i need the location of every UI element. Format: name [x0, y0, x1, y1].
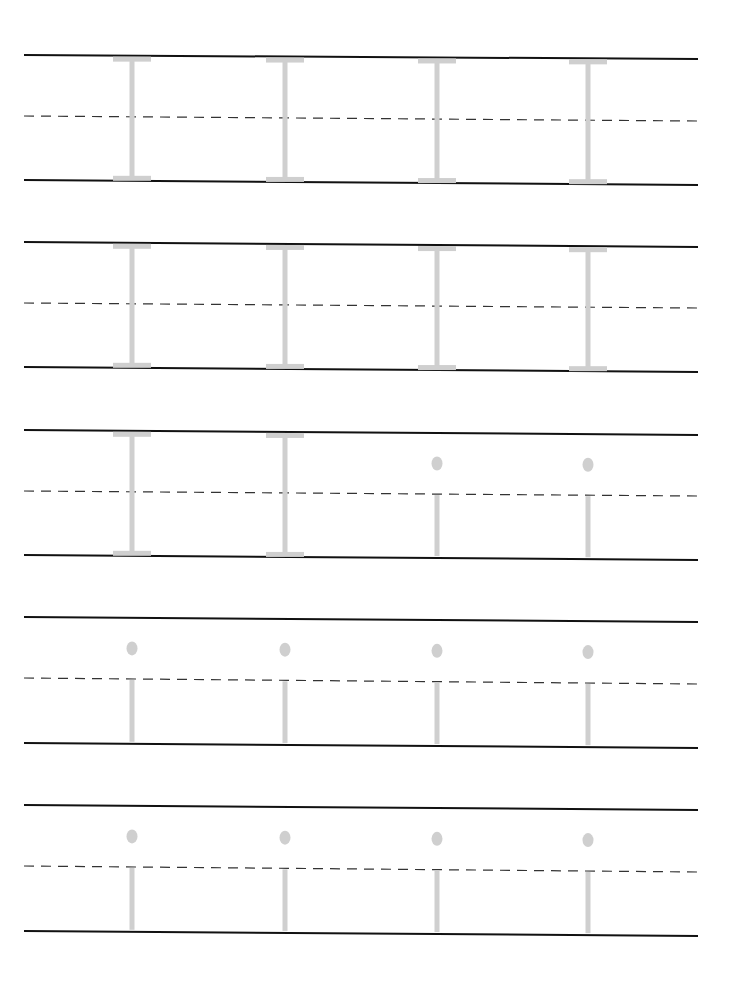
trace-letter-I-bottom-serif — [266, 177, 304, 182]
trace-letter-I-bottom-serif — [569, 366, 607, 371]
trace-letter-I-bottom-serif — [418, 178, 456, 183]
trace-letter-i-dot — [432, 832, 443, 846]
top-line — [24, 617, 698, 622]
trace-letter-i-dot — [583, 645, 594, 659]
trace-letter-i-dot — [127, 641, 138, 655]
trace-letter-i-stem — [130, 868, 135, 930]
trace-letter-i-dot — [280, 831, 291, 845]
bottom-line — [24, 743, 698, 748]
trace-letter-I-stem — [130, 59, 135, 178]
trace-letter-i-stem — [586, 872, 591, 933]
trace-letter-I-stem — [130, 246, 135, 365]
trace-letter-I-stem — [586, 61, 591, 181]
handwriting-worksheet — [0, 0, 736, 989]
trace-letter-I-stem — [283, 247, 288, 366]
trace-letter-I-bottom-serif — [113, 363, 151, 368]
dashed-midline — [24, 116, 698, 121]
trace-letter-I-bottom-serif — [266, 552, 304, 557]
trace-letter-i-dot — [432, 457, 443, 471]
bottom-line — [24, 931, 698, 936]
trace-letter-i-stem — [283, 869, 288, 931]
trace-letter-i-stem — [435, 871, 440, 932]
trace-letter-I-bottom-serif — [113, 176, 151, 181]
trace-letter-i-stem — [283, 681, 288, 743]
trace-letter-I-stem — [283, 435, 288, 554]
trace-letter-I-stem — [586, 249, 591, 368]
trace-letter-i-dot — [583, 458, 594, 472]
trace-letter-i-stem — [586, 496, 591, 557]
trace-letter-I-stem — [283, 60, 288, 179]
trace-letter-I-bottom-serif — [113, 551, 151, 556]
top-line — [24, 805, 698, 810]
trace-letter-I-stem — [435, 60, 440, 180]
trace-letter-I-stem — [435, 248, 440, 367]
dashed-midline — [24, 303, 698, 308]
trace-letter-I-stem — [130, 434, 135, 553]
trace-letter-i-dot — [127, 829, 138, 843]
trace-letter-i-dot — [432, 644, 443, 658]
trace-letter-i-stem — [435, 683, 440, 744]
trace-letter-i-dot — [280, 643, 291, 657]
trace-letter-i-stem — [586, 684, 591, 745]
dashed-midline — [24, 491, 698, 496]
trace-letter-I-bottom-serif — [418, 365, 456, 370]
trace-letter-i-stem — [435, 495, 440, 556]
trace-letter-i-dot — [583, 833, 594, 847]
dashed-midline — [24, 678, 698, 684]
trace-letter-I-bottom-serif — [569, 179, 607, 184]
trace-letter-I-bottom-serif — [266, 364, 304, 369]
dashed-midline — [24, 866, 698, 872]
trace-letter-i-stem — [130, 680, 135, 742]
